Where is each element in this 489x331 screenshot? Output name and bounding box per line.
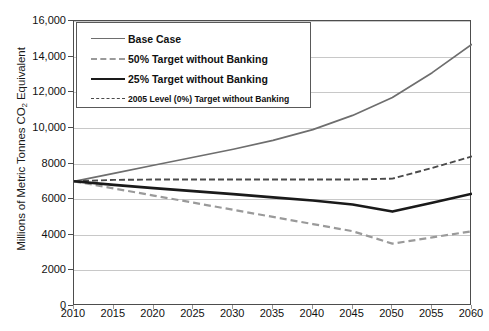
series-line-2 bbox=[74, 181, 472, 211]
x-axis-tick: 2060 bbox=[449, 307, 489, 319]
x-axis-tick-mark bbox=[192, 305, 193, 309]
legend-item[interactable]: Base Case bbox=[77, 29, 310, 49]
y-axis-tick: 6000 bbox=[0, 193, 66, 203]
x-axis-tick-mark bbox=[153, 305, 154, 309]
legend-swatch-icon bbox=[91, 33, 125, 45]
legend-swatch-icon bbox=[91, 53, 125, 65]
legend-label: 25% Target without Banking bbox=[128, 73, 268, 85]
x-axis-tick-labels: 2010201520202025203020352040204520502055… bbox=[0, 307, 489, 327]
y-axis-tick: 12,000 bbox=[0, 86, 66, 96]
x-axis-tick-mark bbox=[272, 305, 273, 309]
y-axis-tick: 2000 bbox=[0, 264, 66, 274]
legend-label: 2005 Level (0%) Target without Banking bbox=[128, 94, 289, 104]
x-axis-tick-mark bbox=[312, 305, 313, 309]
legend-swatch-icon bbox=[91, 73, 125, 85]
y-axis-tick: 8000 bbox=[0, 158, 66, 168]
y-axis-tick: 10,000 bbox=[0, 122, 66, 132]
legend-label: 50% Target without Banking bbox=[128, 53, 268, 65]
legend-item[interactable]: 2005 Level (0%) Target without Banking bbox=[77, 89, 310, 109]
y-axis-tick: 14,000 bbox=[0, 51, 66, 61]
chart-legend: Base Case50% Target without Banking25% T… bbox=[76, 22, 311, 108]
legend-item[interactable]: 50% Target without Banking bbox=[77, 49, 310, 69]
x-axis-tick-mark bbox=[471, 305, 472, 309]
series-line-1 bbox=[74, 181, 472, 243]
y-axis-tick: 4000 bbox=[0, 229, 66, 239]
x-axis-tick-mark bbox=[232, 305, 233, 309]
x-axis-tick-mark bbox=[391, 305, 392, 309]
emissions-line-chart: Millions of Metric Tonnes CO2 Equivalent… bbox=[0, 0, 489, 331]
x-axis-tick-mark bbox=[431, 305, 432, 309]
x-axis-tick-mark bbox=[113, 305, 114, 309]
y-axis-tick: 16,000 bbox=[0, 15, 66, 25]
legend-label: Base Case bbox=[128, 33, 181, 45]
legend-swatch-icon bbox=[91, 93, 125, 105]
x-axis-tick-mark bbox=[352, 305, 353, 309]
legend-item[interactable]: 25% Target without Banking bbox=[77, 69, 310, 89]
x-axis-tick-mark bbox=[73, 305, 74, 309]
